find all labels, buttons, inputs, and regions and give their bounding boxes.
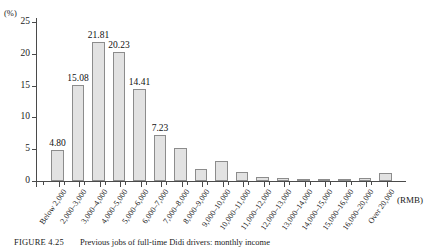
bar-rect bbox=[236, 172, 249, 181]
x-axis-tick-mark bbox=[202, 182, 203, 187]
x-axis-tick-mark bbox=[120, 182, 121, 187]
figure-caption: FIGURE 4.25Previous jobs of full-time Di… bbox=[14, 238, 434, 248]
figure-caption-label: FIGURE 4.25 bbox=[14, 237, 64, 247]
x-axis-tick-mark bbox=[207, 182, 208, 185]
bar-rect bbox=[195, 169, 208, 181]
y-axis-tick-label: 0 bbox=[25, 176, 30, 186]
bar-value-label: 15.08 bbox=[67, 74, 88, 84]
x-axis-tick-mark bbox=[105, 182, 106, 185]
x-axis-tick-mark bbox=[289, 182, 290, 185]
x-axis-tick-mark bbox=[371, 182, 372, 185]
y-axis-tick-label: 20 bbox=[21, 49, 31, 59]
x-axis-tick-mark bbox=[100, 182, 101, 187]
x-axis-labels: Below 2,0002,000–3,0003,000–4,0004,000–5… bbox=[36, 188, 416, 236]
x-axis-tick-mark bbox=[330, 182, 331, 185]
x-axis-tick-mark bbox=[43, 182, 44, 185]
x-axis-tick-mark bbox=[366, 182, 367, 187]
x-axis-tick-mark bbox=[325, 182, 326, 187]
bar-rect bbox=[338, 179, 351, 181]
bar-value-label: 20.23 bbox=[108, 41, 129, 51]
bar-rect bbox=[51, 150, 64, 181]
bar-rect bbox=[277, 178, 290, 181]
bar-rect bbox=[359, 178, 372, 181]
y-axis-tick-label: 10 bbox=[21, 113, 31, 123]
bar-rect bbox=[113, 52, 126, 181]
bar-series: 4.8015.0821.8120.2314.417.23 bbox=[36, 18, 406, 182]
bar-value-label: 7.23 bbox=[152, 124, 169, 134]
x-axis-tick-mark bbox=[146, 182, 147, 185]
x-axis-tick-mark bbox=[141, 182, 142, 187]
x-axis-tick-mark bbox=[264, 182, 265, 187]
bar-rect bbox=[256, 177, 269, 181]
bar-value-label: 21.81 bbox=[88, 31, 109, 41]
x-axis-unit-label: (RMB) bbox=[397, 196, 423, 205]
x-axis-tick-mark bbox=[84, 182, 85, 185]
y-axis-tick-label: 15 bbox=[21, 81, 31, 91]
bar-rect bbox=[297, 179, 310, 181]
x-axis-tick-mark bbox=[310, 182, 311, 185]
x-axis-tick-mark bbox=[223, 182, 224, 187]
x-axis-tick-mark bbox=[305, 182, 306, 187]
x-axis-tick-mark bbox=[125, 182, 126, 185]
bar-rect bbox=[318, 179, 331, 181]
x-axis-tick-mark bbox=[351, 182, 352, 185]
x-axis-tick-mark bbox=[387, 182, 388, 187]
bar-value-label: 14.41 bbox=[129, 78, 150, 88]
x-axis-tick-mark bbox=[346, 182, 347, 187]
x-axis-tick-mark bbox=[228, 182, 229, 185]
y-axis-tick-label: 25 bbox=[21, 17, 31, 27]
x-axis-tick-mark bbox=[166, 182, 167, 185]
bar-rect bbox=[215, 161, 228, 181]
x-axis-tick-mark bbox=[36, 182, 37, 187]
bar-rect bbox=[174, 148, 187, 181]
bar-rect bbox=[133, 89, 146, 181]
bar-rect bbox=[72, 85, 85, 181]
bar-rect bbox=[92, 42, 105, 181]
x-axis-tick-mark bbox=[64, 182, 65, 185]
x-axis-tick-mark bbox=[243, 182, 244, 187]
plot-area: 0510152025 4.8015.0821.8120.2314.417.23 bbox=[36, 18, 406, 182]
x-axis-tick-mark bbox=[284, 182, 285, 187]
bar-rect bbox=[379, 173, 392, 181]
y-axis-tick-label: 5 bbox=[25, 144, 30, 154]
x-axis-tick-mark bbox=[161, 182, 162, 187]
y-axis-unit-label: (%) bbox=[4, 9, 17, 18]
figure-caption-text: Previous jobs of full-time Didi drivers:… bbox=[80, 237, 270, 247]
x-axis-tick-mark bbox=[59, 182, 60, 187]
x-axis-tick-mark bbox=[269, 182, 270, 185]
x-axis-tick-mark bbox=[79, 182, 80, 187]
x-axis-tick-mark bbox=[248, 182, 249, 185]
x-axis-tick-mark bbox=[187, 182, 188, 185]
bar-value-label: 4.80 bbox=[49, 139, 66, 149]
bar-rect bbox=[154, 135, 167, 181]
x-axis-tick-mark bbox=[182, 182, 183, 187]
figure-container: (%) 0510152025 4.8015.0821.8120.2314.417… bbox=[0, 0, 439, 252]
